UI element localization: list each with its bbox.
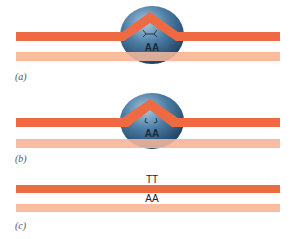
dna-repair-diagram: AA AA TT AA [0,0,290,239]
light-strand-overlap [120,52,184,61]
light-strand [16,204,280,212]
top-base-text: TT [146,174,158,185]
dark-strand [16,185,280,193]
panel-a: AA [16,6,280,64]
panel-label-c: (c) [15,220,26,231]
panel-label-a: (a) [15,71,27,82]
light-strand-overlap [120,139,184,148]
enzyme-text: AA [145,128,159,139]
panel-label-b: (b) [15,153,27,164]
bottom-base-text: AA [145,193,159,204]
enzyme-text: AA [145,42,159,53]
panel-b: AA [16,93,280,149]
panel-c: TT AA [16,174,280,212]
